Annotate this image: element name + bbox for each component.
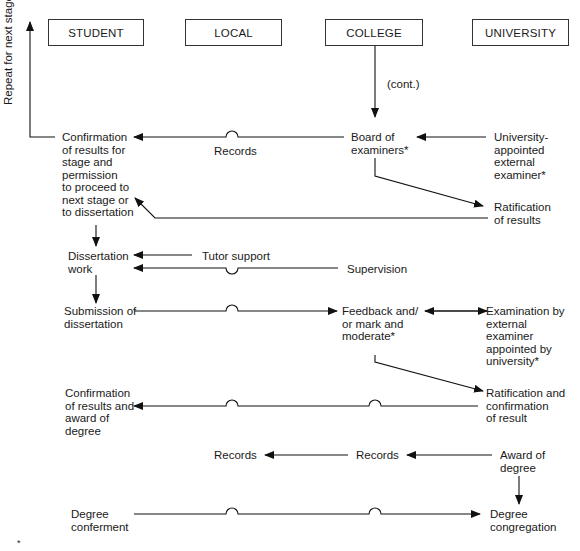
repeat-next-stage-label: Repeat for next stage — [2, 0, 14, 105]
supervision-label: Supervision — [347, 263, 407, 276]
node-ratification-results: Ratification of results — [494, 201, 551, 226]
node-confirmation-stage: Confirmation of results for stage and pe… — [62, 131, 134, 219]
node-degree-conferment: Degree conferment — [71, 508, 129, 533]
node-examination-external: Examination by external examiner appoint… — [486, 305, 565, 368]
records-local-label: Records — [214, 449, 257, 462]
node-submission-dissertation: Submission of dissertation — [64, 305, 136, 330]
node-board-of-examiners: Board of examiners* — [351, 131, 409, 156]
node-award-of-degree: Award of degree — [500, 449, 545, 474]
node-confirmation-award: Confirmation of results and award of deg… — [65, 387, 134, 437]
records-college-label: Records — [356, 449, 399, 462]
node-ratification-confirmation: Ratification and confirmation of result — [486, 387, 565, 425]
tutor-support-label: Tutor support — [202, 250, 270, 263]
footnote-mark: * — [17, 538, 21, 548]
records-label: Records — [214, 145, 257, 158]
connector-lines — [0, 0, 580, 551]
node-degree-congregation: Degree congregation — [490, 508, 557, 533]
node-university-external-examiner: University- appointed external examiner* — [494, 131, 548, 181]
node-dissertation-work: Dissertation work — [68, 250, 129, 275]
cont-label: (cont.) — [387, 78, 420, 91]
node-feedback-mark: Feedback and/ or mark and moderate* — [342, 305, 418, 343]
